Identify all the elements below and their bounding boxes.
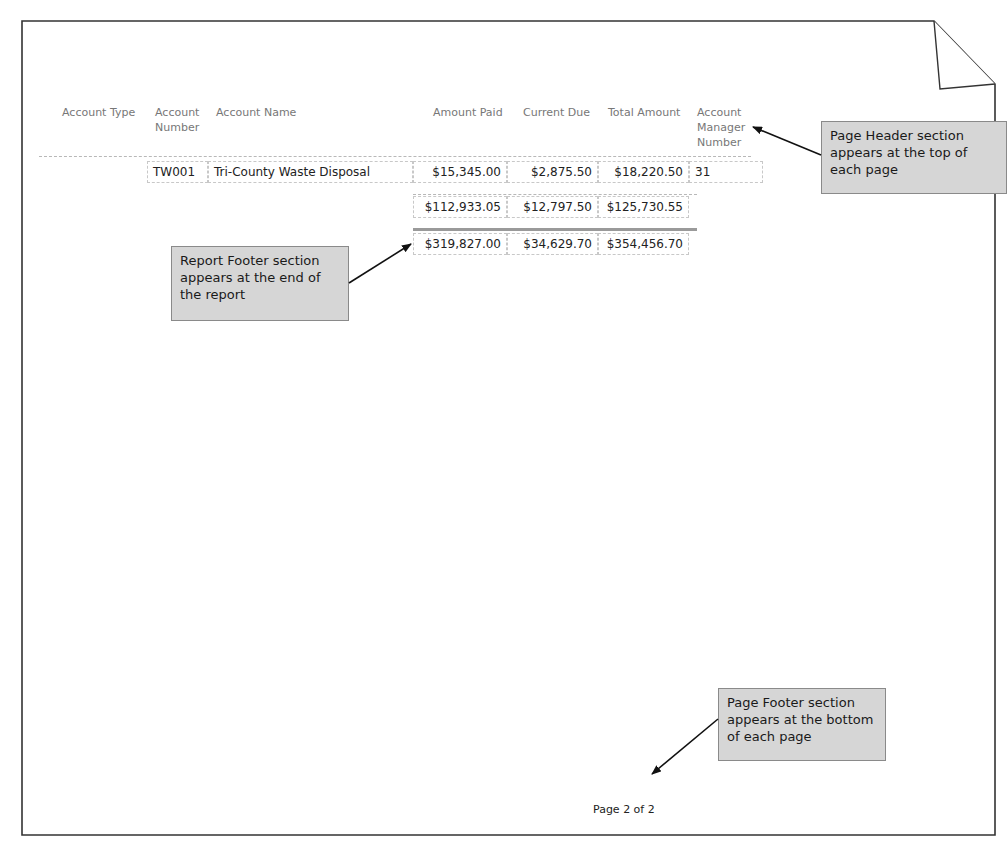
arrow-page-footer-icon xyxy=(652,719,718,774)
arrow-report-footer-icon xyxy=(349,244,411,283)
arrow-page-header-icon xyxy=(753,127,821,155)
